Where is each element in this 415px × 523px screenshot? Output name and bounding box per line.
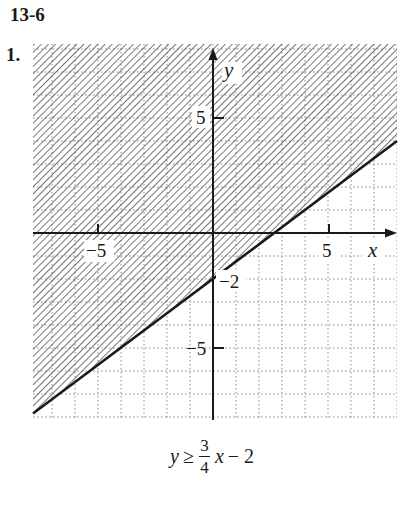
eq-relation: ≥ xyxy=(183,445,194,468)
x-tick-label-neg5: −5 xyxy=(86,240,106,261)
y-tick-label-neg5: −5 xyxy=(186,338,206,359)
eq-lhs: y xyxy=(170,445,179,468)
eq-numerator: 3 xyxy=(200,437,209,454)
x-axis-label: x xyxy=(367,238,378,262)
x-tick-label-5: 5 xyxy=(322,240,332,261)
y-axis-label: y xyxy=(222,58,234,82)
y-intercept-label: −2 xyxy=(219,271,239,292)
eq-variable: x xyxy=(215,445,224,468)
y-tick-label-5: 5 xyxy=(196,107,206,128)
eq-fraction: 3 4 xyxy=(199,437,210,476)
eq-rest: − 2 xyxy=(228,445,254,468)
shaded-region xyxy=(33,44,397,413)
eq-denominator: 4 xyxy=(200,459,209,476)
x-axis-arrow xyxy=(385,229,397,238)
inequality-caption: y ≥ 3 4 x − 2 xyxy=(170,437,254,476)
